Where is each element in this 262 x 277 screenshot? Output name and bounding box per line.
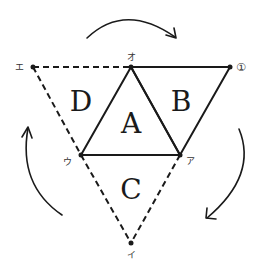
region-label-d: D (70, 85, 92, 118)
vertex-label-i: イ (127, 250, 136, 260)
rotation-arrow-top (87, 20, 176, 38)
region-label-c: C (120, 173, 141, 206)
rotation-arrow-left (22, 127, 62, 215)
vertex-o-dot (129, 65, 134, 70)
vertex-label-e: エ (15, 62, 24, 72)
vertex-a-dot (178, 153, 183, 158)
vertex-label-u: ウ (63, 157, 72, 167)
vertex-e-dot (31, 65, 36, 70)
vertex-circled-1-dot (228, 65, 233, 70)
vertex-u-dot (79, 153, 84, 158)
vertex-i-dot (129, 241, 134, 246)
vertex-label-a: ア (186, 156, 195, 166)
region-label-a: A (120, 107, 142, 140)
vertex-label-o: オ (127, 52, 136, 62)
diagram-canvas: A B C D オ ① エ ウ ア イ (0, 0, 262, 277)
vertex-label-circled-1: ① (236, 61, 246, 74)
region-label-b: B (171, 85, 192, 118)
rotation-arrow-right (206, 129, 244, 219)
